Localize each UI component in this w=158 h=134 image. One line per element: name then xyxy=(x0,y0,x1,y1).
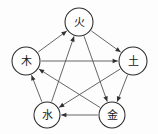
arrowhead-water-to-wood xyxy=(31,75,35,81)
edge-wood-to-earth xyxy=(41,59,118,64)
edge-line-fire-to-metal xyxy=(84,36,107,101)
node-circle-wood[interactable] xyxy=(12,47,40,75)
node-circle-metal[interactable] xyxy=(99,102,125,128)
arrowhead-metal-to-water xyxy=(61,113,66,118)
node-fire[interactable]: 火 xyxy=(65,8,93,36)
edge-earth-to-metal xyxy=(117,75,128,102)
edge-fire-to-metal xyxy=(84,36,108,101)
edge-wood-to-fire xyxy=(38,31,67,52)
node-water[interactable]: 水 xyxy=(34,102,60,128)
node-circle-fire[interactable] xyxy=(65,8,93,36)
edge-metal-to-water xyxy=(61,113,98,118)
node-earth[interactable]: 土 xyxy=(119,47,147,75)
arrowhead-water-to-fire xyxy=(70,36,74,42)
nodes-layer: 火土金水木 xyxy=(12,8,147,128)
edge-line-water-to-fire xyxy=(52,36,74,101)
edge-line-wood-to-fire xyxy=(38,31,67,52)
node-circle-earth[interactable] xyxy=(119,47,147,75)
edge-water-to-fire xyxy=(52,36,75,101)
edge-fire-to-earth xyxy=(91,31,120,52)
wuxing-graph-canvas: 火土金水木 xyxy=(0,0,158,134)
node-wood[interactable]: 木 xyxy=(12,47,40,75)
arrowhead-metal-to-wood xyxy=(39,69,45,74)
arrowhead-fire-to-earth xyxy=(115,47,121,52)
edge-line-fire-to-earth xyxy=(91,31,120,52)
node-circle-water[interactable] xyxy=(34,102,60,128)
edge-water-to-wood xyxy=(31,75,42,102)
arrowhead-wood-to-fire xyxy=(61,31,67,36)
arrowhead-fire-to-metal xyxy=(103,96,107,102)
arrowhead-wood-to-earth xyxy=(113,59,118,64)
arrowhead-earth-to-metal xyxy=(117,96,121,102)
arrowhead-earth-to-water xyxy=(59,103,65,108)
node-metal[interactable]: 金 xyxy=(99,102,125,128)
wuxing-diagram: 火土金水木 xyxy=(0,0,158,134)
